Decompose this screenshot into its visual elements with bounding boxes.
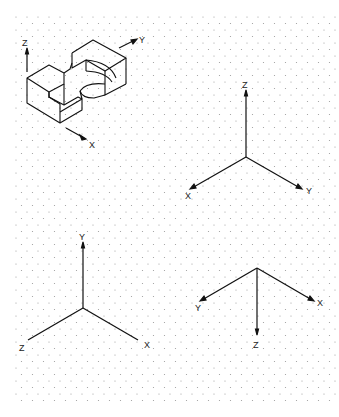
isometric-object <box>27 40 126 123</box>
axis-x-label-3: X <box>317 298 323 308</box>
axis-z-label-3: Z <box>253 340 259 350</box>
axis-set-upper-right <box>190 90 302 189</box>
object-z-label: Z <box>22 38 28 48</box>
axis-y-label-2: Y <box>79 232 85 242</box>
object-y-label: Y <box>139 35 145 45</box>
object-x-label: X <box>89 140 95 150</box>
axis-z-label-1: Z <box>242 80 248 90</box>
axis-set-lower-right <box>200 268 314 335</box>
axis-x-label-2: X <box>144 340 150 350</box>
axis-set-lower-left <box>28 242 138 340</box>
isometric-drawing-sheet: Z Y X Z X Y Y Z X Z Y X <box>0 0 339 417</box>
axis-z-label-2: Z <box>19 343 25 353</box>
isometric-dot-grid <box>15 16 335 401</box>
axis-y-label-3: Y <box>195 303 201 313</box>
axis-y-label-1: Y <box>306 186 312 196</box>
axis-x-label-1: X <box>185 191 191 201</box>
